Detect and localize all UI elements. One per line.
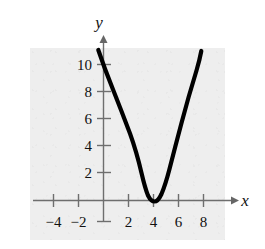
y-tick-label-4: 4: [85, 138, 93, 154]
y-tick-label-8: 8: [85, 84, 93, 100]
graph-canvas: −4 −2 2 4 6 8 2 4 6 8 10 y x: [0, 0, 265, 249]
curve-helper: [99, 50, 225, 174]
y-tick-label-6: 6: [85, 111, 93, 127]
x-tick-label-4: 4: [150, 214, 158, 230]
y-tick-label-10: 10: [77, 57, 92, 73]
x-tick-label-2: 2: [125, 214, 133, 230]
x-tick-label--2: −2: [71, 214, 87, 230]
y-axis-label: y: [93, 13, 103, 32]
x-tick-label--4: −4: [46, 214, 62, 230]
parabola-figure: −4 −2 2 4 6 8 2 4 6 8 10 y x: [0, 0, 265, 249]
y-tick-label-2: 2: [85, 165, 93, 181]
x-tick-label-6: 6: [175, 214, 183, 230]
x-tick-label-8: 8: [200, 214, 208, 230]
x-axis-label: x: [240, 191, 249, 210]
parabola-curve: [98, 50, 201, 202]
